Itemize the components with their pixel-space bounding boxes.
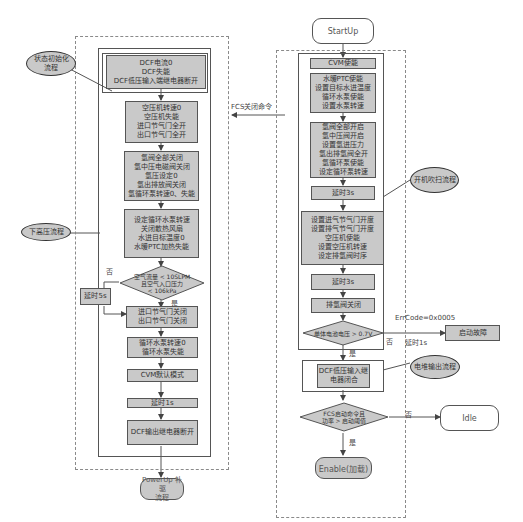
decision-no-label: 否	[106, 266, 113, 276]
dcf-init-box: DCF电流0 DCF失能 DCF低压输入端继电器断开	[106, 55, 206, 89]
powerup-process-terminal: PowerUp 补驱 流程	[140, 478, 184, 500]
power-decision-text: FCS启动命令且 功率 > 启动阈值	[316, 407, 372, 427]
compressor-stop-box: 空压机转速0 空压机失能 进口节气门全开 出口节气门全开	[125, 101, 198, 143]
enable-load-terminal: Enable(加载)	[315, 457, 372, 479]
power-yes-label: 是	[349, 437, 356, 447]
cell-no-label: 否	[386, 336, 393, 346]
air-system-setup-box: 设置进气节气门开度 设置排气节气门开度 空压机使能 设置空压机转速 设定排氢阀时…	[301, 211, 384, 265]
start-fault-box: 启动故障	[445, 325, 500, 341]
cell-voltage-decision-text: 单体电池电压 > 0.7V	[312, 326, 374, 340]
purge-valve-close-box: 排氢阀关闭	[311, 298, 375, 313]
state-init-annotation: 状态初始化 流程	[26, 51, 76, 76]
hydrogen-valve-open-box: 氢阀全部开启 氢中压阀开启 设置氢进压力 氢出排氢阀全开 氢循环泵使能 设定循环…	[310, 122, 376, 178]
dcf-output-relay-off-box: DCF输出继电器断开	[127, 420, 198, 445]
startup-terminal: StartUp	[312, 18, 374, 44]
dcf-relay-close-box: DCF低压输入继 电器闭合	[317, 364, 370, 388]
delay-3s-b-box: 延时3s	[311, 274, 375, 290]
water-pump-stop-box: 循环水泵转速0 循环水泵失能	[127, 337, 198, 358]
power-no-label: 否	[405, 409, 412, 419]
stack-output-annotation: 电堆输出流程	[410, 355, 460, 379]
delay-1s-label: 延时1s	[405, 337, 427, 347]
hv-down-annotation: 下高压流程	[21, 223, 71, 241]
ptc-enable-box: 水暖PTC使能 设置目标水进温度 循环水泵使能 设置水泵转速	[310, 73, 376, 113]
throttle-close-box: 进口节气门关闭 出口节气门关闭	[126, 306, 198, 328]
cvm-default-box: CVM默认模式	[127, 369, 198, 382]
errcode-label: ErrCode=0x0005	[395, 314, 455, 322]
idle-terminal: Idle	[440, 405, 499, 431]
fcs-close-command-label: FCS关闭命令	[231, 101, 272, 111]
delay-5s-box: 延时5s	[80, 288, 111, 305]
water-pump-setting-box: 设定循环水泵转速 关闭散热风扇 水进目标温度0 水暖PTC加热失能	[124, 209, 199, 258]
delay-3s-a-box: 延时3s	[311, 186, 375, 200]
air-flow-decision-text: 空气流量 < 10SLPM 且空气入口压力 < 106kPa	[130, 268, 194, 298]
startup-purge-annotation: 开机吹扫流程	[410, 167, 459, 193]
hydrogen-valve-close-box: 氢阀全部关闭 氢中压电磁阀关闭 氢压设定0 氢出排放阀关闭 氢循环泵转速0、失能	[124, 151, 199, 201]
cvm-enable-box: CVM使能	[310, 58, 376, 69]
cell-yes-label: 是	[349, 348, 356, 358]
delay-1s-box: 延时1s	[127, 398, 198, 408]
